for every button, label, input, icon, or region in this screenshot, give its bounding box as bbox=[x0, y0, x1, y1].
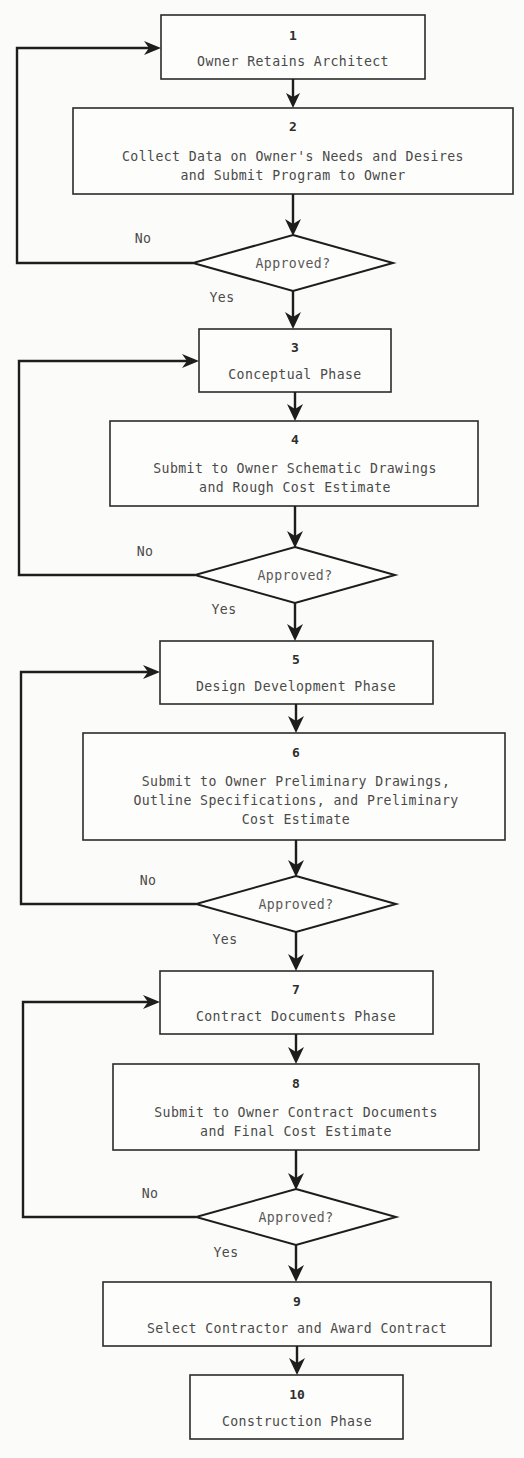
node-10-shape bbox=[190, 1375, 403, 1439]
node-10-number: 10 bbox=[289, 1387, 305, 1402]
edge-d2-n5-yes: Yes bbox=[211, 602, 303, 641]
node-10-label-line-0: Construction Phase bbox=[222, 1414, 372, 1429]
node-9[interactable]: 9 Select Contractor and Award Contract bbox=[103, 1282, 491, 1346]
edge-d4-n9-yes: Yes bbox=[213, 1245, 304, 1282]
decision-3-label: Approved? bbox=[258, 897, 333, 912]
node-5[interactable]: 5 Design Development Phase bbox=[160, 641, 433, 704]
node-2-number: 2 bbox=[289, 119, 297, 134]
branch-label-yes-4: Yes bbox=[213, 1245, 238, 1260]
node-3[interactable]: 3 Conceptual Phase bbox=[199, 329, 391, 392]
node-9-label-line-0: Select Contractor and Award Contract bbox=[147, 1321, 447, 1336]
node-10[interactable]: 10 Construction Phase bbox=[190, 1375, 403, 1439]
node-7-label-line-0: Contract Documents Phase bbox=[196, 1009, 396, 1024]
node-7-shape bbox=[160, 971, 433, 1034]
node-8-label-line-1: and Final Cost Estimate bbox=[200, 1124, 392, 1139]
flowchart-svg: 1 Owner Retains Architect 2 Collect Data… bbox=[0, 0, 524, 1458]
branch-label-yes-3: Yes bbox=[212, 932, 237, 947]
node-1-number: 1 bbox=[289, 28, 297, 43]
node-1-label-line-0: Owner Retains Architect bbox=[197, 54, 389, 69]
node-6[interactable]: 6 Submit to Owner Preliminary Drawings, … bbox=[83, 733, 505, 840]
branch-label-yes-2: Yes bbox=[211, 602, 236, 617]
branch-label-no-4: No bbox=[142, 1186, 159, 1201]
node-4-label-line-1: and Rough Cost Estimate bbox=[199, 480, 391, 495]
edge-n5-n6 bbox=[288, 704, 304, 733]
decision-1-label: Approved? bbox=[255, 256, 330, 271]
flowchart-canvas: 1 Owner Retains Architect 2 Collect Data… bbox=[0, 0, 524, 1458]
edge-n6-d3 bbox=[288, 840, 304, 877]
node-7[interactable]: 7 Contract Documents Phase bbox=[160, 971, 433, 1034]
decision-4-label: Approved? bbox=[258, 1210, 333, 1225]
node-3-shape bbox=[199, 329, 391, 392]
node-6-number: 6 bbox=[292, 745, 300, 760]
node-1-shape bbox=[161, 15, 425, 79]
node-8-label-line-0: Submit to Owner Contract Documents bbox=[154, 1105, 438, 1120]
node-2-label-line-1: and Submit Program to Owner bbox=[180, 168, 405, 183]
edge-d1-n3-yes: Yes bbox=[209, 290, 301, 329]
decision-1[interactable]: Approved? bbox=[193, 235, 393, 291]
node-5-number: 5 bbox=[292, 652, 300, 667]
node-8-number: 8 bbox=[292, 1076, 300, 1091]
node-5-shape bbox=[160, 641, 433, 704]
node-8[interactable]: 8 Submit to Owner Contract Documents and… bbox=[113, 1064, 479, 1150]
node-9-shape bbox=[103, 1282, 491, 1346]
branch-label-no-3: No bbox=[140, 873, 157, 888]
decision-2[interactable]: Approved? bbox=[195, 547, 395, 603]
node-6-label-line-1: Outline Specifications, and Preliminary bbox=[133, 793, 458, 808]
node-3-number: 3 bbox=[291, 340, 299, 355]
edge-n1-n2 bbox=[286, 79, 300, 108]
node-4-number: 4 bbox=[291, 432, 299, 447]
edge-d3-n7-yes: Yes bbox=[212, 932, 304, 971]
branch-label-yes-1: Yes bbox=[209, 290, 234, 305]
edge-n3-n4 bbox=[287, 392, 303, 421]
node-2-label-line-0: Collect Data on Owner's Needs and Desire… bbox=[122, 149, 464, 164]
edge-n4-d2 bbox=[287, 506, 303, 548]
edge-n8-d4 bbox=[288, 1150, 304, 1190]
decision-2-label: Approved? bbox=[257, 568, 332, 583]
node-4[interactable]: 4 Submit to Owner Schematic Drawings and… bbox=[110, 421, 478, 506]
decision-3[interactable]: Approved? bbox=[196, 876, 396, 932]
decision-4[interactable]: Approved? bbox=[196, 1189, 396, 1245]
branch-label-no-1: No bbox=[135, 231, 152, 246]
node-6-label-line-0: Submit to Owner Preliminary Drawings, bbox=[142, 774, 451, 789]
edge-n2-d1 bbox=[285, 194, 301, 236]
node-3-label-line-0: Conceptual Phase bbox=[228, 367, 361, 382]
branch-label-no-2: No bbox=[137, 544, 154, 559]
node-7-number: 7 bbox=[292, 982, 300, 997]
node-9-number: 9 bbox=[293, 1294, 301, 1309]
node-5-label-line-0: Design Development Phase bbox=[196, 679, 396, 694]
edge-n9-n10 bbox=[289, 1346, 305, 1375]
node-2[interactable]: 2 Collect Data on Owner's Needs and Desi… bbox=[73, 108, 513, 194]
node-6-label-line-2: Cost Estimate bbox=[242, 812, 350, 827]
node-1[interactable]: 1 Owner Retains Architect bbox=[161, 15, 425, 79]
node-4-label-line-0: Submit to Owner Schematic Drawings bbox=[153, 461, 437, 476]
edge-n7-n8 bbox=[288, 1034, 304, 1064]
